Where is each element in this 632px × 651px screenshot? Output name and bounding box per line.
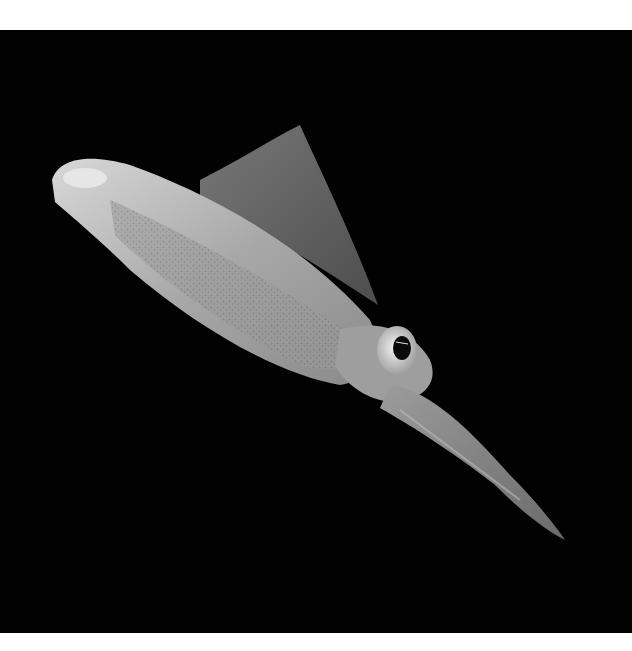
squid-arms (380, 385, 565, 540)
photo-frame (0, 30, 632, 633)
squid-illustration (0, 30, 632, 633)
